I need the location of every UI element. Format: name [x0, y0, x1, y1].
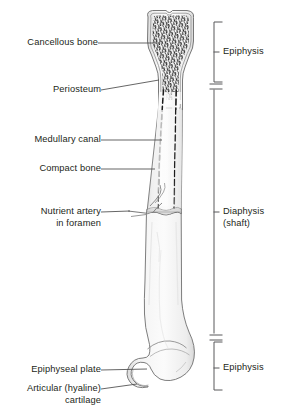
region-label-epiphysis-top: Epiphysis: [223, 46, 264, 58]
region-label-diaphysis-line2: (shaft): [223, 218, 250, 230]
leader-periosteum: [101, 80, 159, 90]
label-epiphyseal-plate: Epiphyseal plate: [0, 364, 105, 376]
region-label-epiphysis-bottom: Epiphysis: [223, 362, 264, 374]
label-periosteum: Periosteum: [0, 84, 105, 96]
region-brackets: [210, 22, 222, 390]
label-articular-cartilage-line2: cartilage: [0, 395, 105, 407]
leader-articular-cartilage: [101, 384, 137, 389]
label-nutrient-artery-line1: Nutrient artery: [0, 206, 105, 218]
leader-nutrient-artery: [101, 211, 130, 212]
leader-epiphyseal-plate: [101, 369, 147, 370]
label-compact-bone: Compact bone: [0, 163, 105, 175]
distal-bone-shape: [127, 212, 194, 388]
bracket-epiphysis-bottom: [214, 342, 222, 390]
bone-diagram: Cancellous bone Periosteum Medullary can…: [0, 0, 287, 413]
region-label-diaphysis-line1: Diaphysis: [223, 206, 264, 218]
label-medullary-canal: Medullary canal: [0, 134, 105, 146]
label-articular-cartilage-line1: Articular (hyaline): [0, 383, 105, 395]
label-nutrient-artery-line2: in foramen: [0, 218, 105, 230]
label-cancellous-bone: Cancellous bone: [0, 37, 102, 49]
